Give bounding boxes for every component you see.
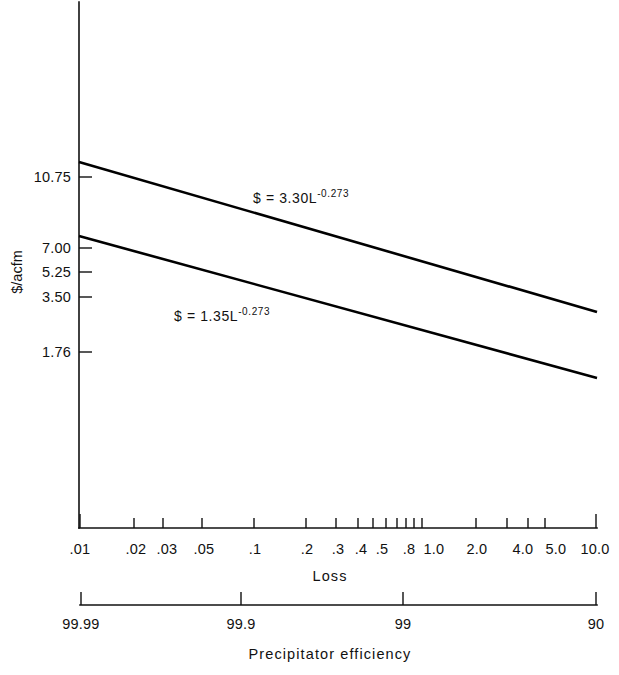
x-tick-label: 5.0 xyxy=(546,541,567,557)
x-tick-label: .02 xyxy=(126,541,147,557)
y-axis-title: $/acfm xyxy=(9,250,25,294)
annotation-lower-text: $ = 1.35L xyxy=(174,308,238,324)
x-tick-label: .5 xyxy=(376,541,389,557)
secondary-tick-label: 90 xyxy=(588,616,605,632)
x-tick-label: 1.0 xyxy=(424,541,445,557)
annotation-upper-text: $ = 3.30L xyxy=(253,190,317,206)
y-tick-label: 7.00 xyxy=(42,240,71,256)
secondary-axis-title: Precipitator efficiency xyxy=(249,646,412,662)
secondary-tick-label: 99.9 xyxy=(226,616,255,632)
x-tick-label: .3 xyxy=(332,541,345,557)
x-tick-label: .1 xyxy=(249,541,262,557)
chart-background xyxy=(0,0,619,675)
x-tick-label: 10.0 xyxy=(580,541,609,557)
x-tick-label: .03 xyxy=(157,541,178,557)
chart-svg: 10.75 7.00 5.25 3.50 1.76 $/acfm $ = 3.3… xyxy=(0,0,619,675)
y-tick-label: 5.25 xyxy=(42,264,71,280)
secondary-tick-label: 99 xyxy=(395,616,412,632)
annotation-upper-exponent: -0.273 xyxy=(317,188,349,199)
y-tick-label: 3.50 xyxy=(42,289,71,305)
x-tick-label: .4 xyxy=(355,541,368,557)
y-tick-label: 1.76 xyxy=(42,344,71,360)
annotation-lower-exponent: -0.273 xyxy=(238,306,270,317)
y-tick-label: 10.75 xyxy=(34,169,71,185)
x-axis-title: Loss xyxy=(312,568,347,584)
x-tick-label: .2 xyxy=(301,541,314,557)
x-tick-label: 2.0 xyxy=(467,541,488,557)
x-tick-label: .8 xyxy=(403,541,416,557)
x-tick-label: .01 xyxy=(70,541,91,557)
x-tick-label: .05 xyxy=(194,541,215,557)
x-tick-label: 4.0 xyxy=(513,541,534,557)
secondary-tick-label: 99.99 xyxy=(62,616,99,632)
chart-figure: 10.75 7.00 5.25 3.50 1.76 $/acfm $ = 3.3… xyxy=(0,0,619,675)
